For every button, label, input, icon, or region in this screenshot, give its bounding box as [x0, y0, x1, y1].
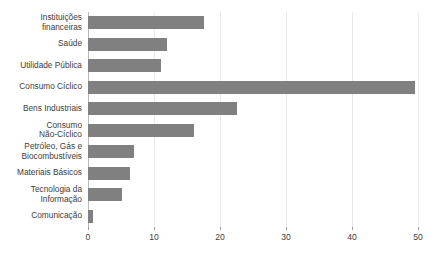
bar-row	[88, 55, 418, 77]
value-axis: 01020304050	[88, 227, 418, 249]
gridline	[418, 12, 419, 227]
category-label: ConsumoNão-Cíclico	[0, 120, 82, 142]
x-tick-label: 30	[281, 232, 291, 242]
category-label: Materiais Básicos	[0, 163, 82, 185]
bar	[88, 38, 167, 51]
bar	[88, 145, 134, 158]
bar-row	[88, 163, 418, 185]
x-tick-label: 20	[215, 232, 225, 242]
category-label: Comunicação	[0, 206, 82, 228]
category-axis-labels: InstituiçõesfinanceirasSaúdeUtilidade Pú…	[0, 12, 82, 227]
category-label: Saúde	[0, 34, 82, 56]
x-tick-mark	[352, 227, 353, 230]
bar-row	[88, 184, 418, 206]
category-label-line: Não-Cíclico	[39, 130, 82, 140]
category-label: Consumo Cíclico	[0, 77, 82, 99]
category-label: Bens Industriais	[0, 98, 82, 120]
category-label: Utilidade Pública	[0, 55, 82, 77]
bar-row	[88, 12, 418, 34]
bar-row	[88, 141, 418, 163]
category-label-line: Bens Industriais	[23, 104, 82, 114]
category-label-line: Saúde	[58, 39, 82, 49]
bar	[88, 124, 194, 137]
x-tick-label: 40	[347, 232, 357, 242]
category-label-line: financeiras	[40, 23, 82, 33]
bar	[88, 210, 93, 223]
category-label-line: Comunicação	[31, 211, 82, 221]
category-label-line: Consumo Cíclico	[19, 82, 82, 92]
x-tick-mark	[418, 227, 419, 230]
bar-row	[88, 34, 418, 56]
bar-row	[88, 206, 418, 228]
bar-row	[88, 98, 418, 120]
category-label-line: Utilidade Pública	[20, 61, 82, 71]
x-tick-mark	[220, 227, 221, 230]
category-label: Petróleo, Gás eBiocombustíveis	[0, 141, 82, 163]
bar-row	[88, 77, 418, 99]
bar	[88, 81, 415, 94]
category-label: Instituiçõesfinanceiras	[0, 12, 82, 34]
plot-area	[88, 12, 418, 227]
x-tick-label: 50	[413, 232, 423, 242]
bar	[88, 188, 122, 201]
category-label: Tecnologia daInformação	[0, 184, 82, 206]
x-tick-label: 10	[149, 232, 159, 242]
category-label-line: Informação	[31, 195, 82, 205]
bar-row	[88, 120, 418, 142]
bar-chart: InstituiçõesfinanceirasSaúdeUtilidade Pú…	[0, 0, 444, 259]
bar	[88, 16, 204, 29]
category-label-line: Materiais Básicos	[17, 168, 82, 178]
x-tick-mark	[88, 227, 89, 230]
bar	[88, 167, 130, 180]
category-label-line: Biocombustíveis	[22, 152, 82, 162]
bar	[88, 59, 161, 72]
x-tick-label: 0	[86, 232, 91, 242]
x-tick-mark	[286, 227, 287, 230]
bar	[88, 102, 237, 115]
x-tick-mark	[154, 227, 155, 230]
